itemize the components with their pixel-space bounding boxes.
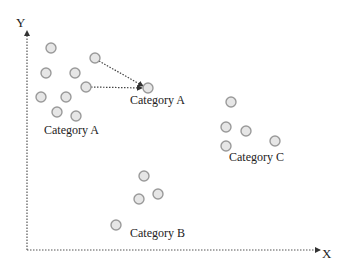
- data-point: [46, 43, 56, 53]
- data-point: [70, 68, 80, 78]
- data-point: [270, 136, 280, 146]
- category-a-label: Category A: [44, 123, 99, 137]
- data-point: [71, 111, 81, 121]
- data-point: [61, 92, 71, 102]
- data-point: [36, 92, 46, 102]
- data-point: [134, 194, 144, 204]
- scatter-diagram: Y X Category A Category A Category C Cat…: [0, 0, 346, 270]
- arrows: [91, 61, 143, 88]
- category-c-label: Category C: [229, 150, 284, 164]
- data-point: [52, 107, 62, 117]
- category-a-moved-label: Category A: [130, 93, 185, 107]
- move-arrow: [99, 61, 143, 86]
- data-point: [241, 126, 251, 136]
- data-point: [139, 171, 149, 181]
- data-point: [90, 53, 100, 63]
- data-point: [81, 82, 91, 92]
- x-axis-label: X: [322, 246, 332, 261]
- data-point: [226, 97, 236, 107]
- data-point: [111, 220, 121, 230]
- data-point: [41, 68, 51, 78]
- data-point: [153, 189, 163, 199]
- data-point: [221, 122, 231, 132]
- data-point: [143, 83, 153, 93]
- labels: Y X Category A Category A Category C Cat…: [16, 15, 332, 261]
- category-b-label: Category B: [130, 226, 185, 240]
- y-axis-label: Y: [16, 15, 26, 30]
- move-arrow: [91, 87, 142, 88]
